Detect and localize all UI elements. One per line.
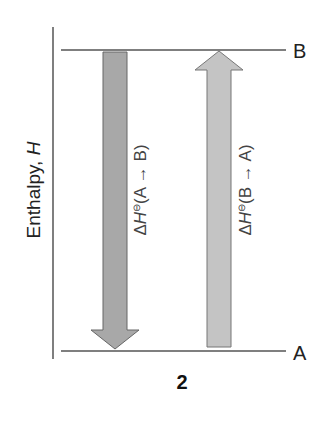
arrow-label-a-to-b: ΔH⊖(A → B): [131, 144, 150, 235]
level-label-b: B: [293, 40, 306, 62]
arrow-label-b-to-a: ΔH⊖(B → A): [236, 144, 255, 235]
y-axis-label: Enthalpy, H: [23, 141, 44, 238]
level-label-a: A: [293, 342, 307, 364]
panel-number: 2: [176, 371, 187, 393]
enthalpy-diagram: Enthalpy, H ΔH⊖(A → B) ΔH⊖(B → A) B A 2: [0, 0, 331, 424]
